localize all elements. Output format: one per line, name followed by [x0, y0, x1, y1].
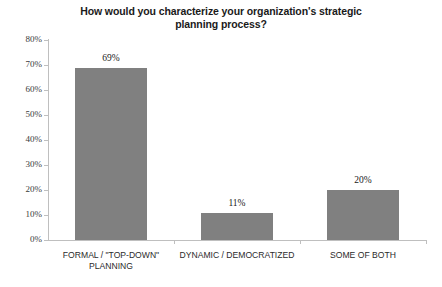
- x-axis-tick: [300, 240, 301, 244]
- x-axis-tick: [174, 240, 175, 244]
- y-axis-tick-label: 50%: [0, 109, 42, 119]
- x-axis-category-label: DYNAMIC / DEMOCRATIZED: [174, 250, 300, 261]
- x-axis-tick: [426, 240, 427, 244]
- y-axis-line: [48, 39, 49, 241]
- y-axis-tick-label: 60%: [0, 84, 42, 94]
- bar-value-label: 20%: [323, 175, 403, 185]
- bar: [201, 213, 273, 241]
- y-axis-tick-label: 70%: [0, 59, 42, 69]
- y-axis-tick: [44, 115, 48, 116]
- x-axis-line: [48, 240, 426, 241]
- bar: [75, 68, 147, 241]
- y-axis-tick: [44, 190, 48, 191]
- y-axis-tick: [44, 240, 48, 241]
- x-axis-label-line: SOME OF BOTH: [300, 250, 426, 261]
- x-axis-category-label: FORMAL / "TOP-DOWN"PLANNING: [48, 250, 174, 272]
- y-axis-tick: [44, 215, 48, 216]
- chart-title-line-2: planning process?: [58, 18, 384, 31]
- chart-title: How would you characterize your organiza…: [58, 5, 384, 31]
- x-axis-label-line: DYNAMIC / DEMOCRATIZED: [174, 250, 300, 261]
- y-axis-tick: [44, 65, 48, 66]
- bar: [327, 190, 399, 240]
- y-axis-tick-label: 80%: [0, 34, 42, 44]
- y-axis-tick: [44, 165, 48, 166]
- x-axis-label-line: FORMAL / "TOP-DOWN": [48, 250, 174, 261]
- y-axis-tick-label: 40%: [0, 134, 42, 144]
- bar-value-label: 69%: [71, 53, 151, 63]
- y-axis-tick-label: 30%: [0, 159, 42, 169]
- bar-chart: How would you characterize your organiza…: [0, 0, 442, 287]
- bar-value-label: 11%: [197, 198, 277, 208]
- y-axis-tick-label: 10%: [0, 209, 42, 219]
- y-axis-tick-label: 0%: [0, 234, 42, 244]
- y-axis-tick: [44, 40, 48, 41]
- chart-title-line-1: How would you characterize your organiza…: [58, 5, 384, 18]
- y-axis-tick: [44, 140, 48, 141]
- y-axis-tick-label: 20%: [0, 184, 42, 194]
- x-axis-label-line: PLANNING: [48, 261, 174, 272]
- y-axis-tick: [44, 90, 48, 91]
- x-axis-category-label: SOME OF BOTH: [300, 250, 426, 261]
